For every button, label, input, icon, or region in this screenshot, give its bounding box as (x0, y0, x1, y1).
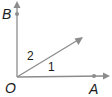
angle-2-label: 2 (27, 49, 34, 63)
point-b (15, 12, 19, 16)
label-a: A (88, 81, 98, 97)
ray-oa (17, 76, 104, 77)
point-a (92, 74, 96, 78)
label-o: O (5, 80, 16, 96)
angle-diagram: B O A 1 2 (0, 0, 112, 97)
arrowhead-icon (103, 73, 110, 80)
label-b: B (2, 6, 11, 22)
arrowhead-icon (14, 1, 21, 8)
angle-1-label: 1 (48, 60, 55, 74)
